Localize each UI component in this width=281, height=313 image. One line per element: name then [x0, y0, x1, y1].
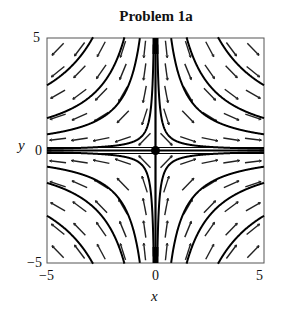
phase-portrait-plot [0, 0, 281, 313]
separatrix-cluster-bottom [153, 247, 159, 263]
y-axis-label: y [18, 137, 25, 154]
xtick-neg5: −5 [39, 268, 54, 284]
x-axis-label: x [151, 288, 158, 305]
ytick-0: 0 [35, 143, 42, 159]
ytick-5: 5 [33, 30, 40, 46]
equilibrium-point [151, 146, 160, 155]
separatrix-cluster-top [153, 38, 159, 54]
xtick-0: 0 [152, 268, 159, 284]
xtick-5: 5 [256, 268, 263, 284]
